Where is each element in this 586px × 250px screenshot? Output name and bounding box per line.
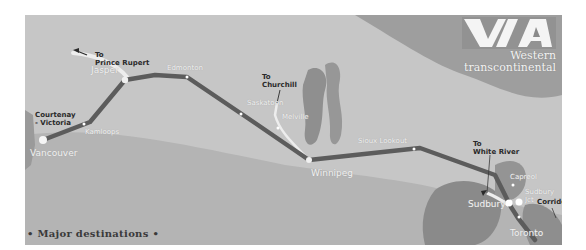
station-label-sioux-lookout: Sioux Lookout bbox=[358, 137, 407, 145]
connection-label-destination: White River bbox=[473, 148, 519, 156]
connection-churchill: To Churchill bbox=[262, 73, 297, 89]
connection-label-to: To bbox=[95, 51, 149, 59]
connection-label-to: To bbox=[473, 140, 519, 148]
map-legend-title: • Major destinations • bbox=[27, 228, 159, 239]
subtitle-line-2: transcontinental bbox=[464, 62, 556, 74]
route-subtitle: Western transcontinental bbox=[464, 50, 556, 74]
connection-courtenay-victoria: Courtenay - Victoria bbox=[35, 111, 76, 127]
connection-label-to: To bbox=[262, 73, 297, 81]
station-label-vancouver: Vancouver bbox=[30, 148, 77, 158]
station-label-sudbury: Sudbury bbox=[468, 199, 506, 209]
connection-label-line2: - Victoria bbox=[35, 119, 76, 127]
station-label-melville: Melville bbox=[282, 113, 309, 121]
via-logo-icon bbox=[462, 17, 556, 49]
station-label-winnipeg: Winnipeg bbox=[311, 168, 353, 178]
connection-label-line1: Courtenay bbox=[35, 111, 76, 119]
station-label-saskatoon: Saskatoon bbox=[247, 99, 283, 107]
station-label-jasper: Jasper bbox=[91, 65, 119, 75]
station-label-edmonton: Edmonton bbox=[167, 64, 203, 72]
route-map: Western transcontinental To Prince Ruper… bbox=[25, 15, 562, 245]
station-label-capreol: Capreol bbox=[510, 173, 537, 181]
connection-white-river: To White River bbox=[473, 140, 519, 156]
station-label-toronto: Toronto bbox=[510, 228, 543, 238]
connection-label-destination: Churchill bbox=[262, 81, 297, 89]
station-label-sudbury-jct: Sudbury Jct bbox=[525, 188, 561, 204]
station-label-kamloops: Kamloops bbox=[85, 128, 119, 136]
